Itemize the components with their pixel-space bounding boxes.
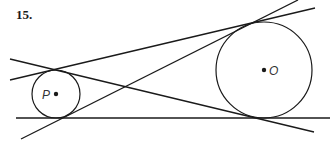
circle-P: P <box>32 70 80 118</box>
circle-O: O <box>216 22 312 118</box>
diagram-canvas: PO <box>0 0 330 146</box>
problem-number: 15. <box>16 7 32 23</box>
center-label-P: P <box>42 88 50 102</box>
center-point-P <box>54 92 58 96</box>
center-point-O <box>262 68 266 72</box>
center-label-O: O <box>269 64 278 78</box>
tangent-circles-figure: 15. PO <box>0 0 330 146</box>
